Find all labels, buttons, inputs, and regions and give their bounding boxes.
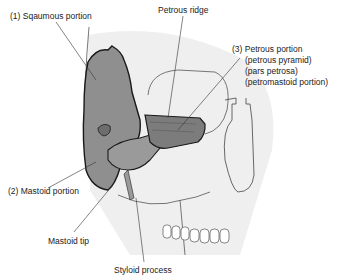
label-styloid-process: Styloid process	[114, 265, 172, 275]
label-mastoid-portion: (2) Mastoid portion	[8, 186, 79, 196]
temporal-bone-diagram: (1) Sqaumous portion Petrous ridge (3) P…	[0, 0, 339, 279]
label-petrous-ridge: Petrous ridge	[158, 5, 209, 15]
label-petrous-portion: (3) Petrous portion	[232, 44, 302, 54]
label-pars-petrosa: (pars petrosa)	[245, 66, 298, 76]
label-squamous-portion: (1) Sqaumous portion	[10, 11, 92, 21]
label-mastoid-tip: Mastoid tip	[48, 236, 89, 246]
label-petrous-pyramid: (petrous pyramid)	[245, 55, 312, 65]
label-petromastoid-portion: (petromastoid portion)	[245, 77, 328, 87]
